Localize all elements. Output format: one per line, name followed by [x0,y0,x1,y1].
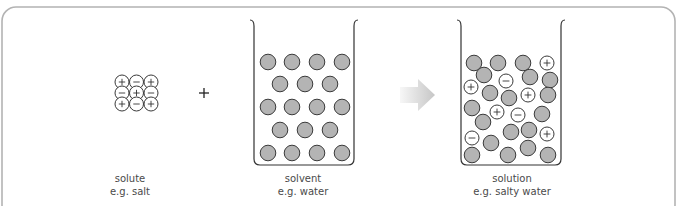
water-molecule [260,145,276,161]
water-molecule [334,54,350,70]
water-molecule [540,87,556,103]
solute-crystal-lattice [115,75,158,111]
water-molecule [503,124,519,140]
water-molecule [475,114,491,130]
water-molecule [297,122,313,138]
water-molecule [309,99,325,115]
water-molecule [482,85,498,101]
water-molecule [521,122,537,138]
plus-operator-icon [199,88,209,98]
right-arrow-icon [400,79,435,111]
solution-label: solution [452,172,572,185]
solution-particles [464,55,558,163]
solute-label: solute [70,172,190,185]
water-molecule [322,76,338,92]
water-molecule [542,72,558,88]
water-molecule [284,54,300,70]
water-molecule [540,147,556,163]
water-molecule [284,145,300,161]
water-molecule [272,122,288,138]
solution-caption: solution e.g. salty water [452,172,572,198]
water-molecule [260,54,276,70]
water-molecule [334,99,350,115]
water-molecule [309,145,325,161]
water-molecule [476,67,492,83]
dissolution-diagram: solute e.g. salt solvent e.g. water solu… [0,0,677,206]
water-molecule [501,90,517,106]
water-molecule [515,55,531,71]
water-molecule [490,55,506,71]
solute-example: e.g. salt [70,185,190,198]
water-molecule [309,54,325,70]
water-molecule [284,99,300,115]
solute-caption: solute e.g. salt [70,172,190,198]
water-molecule [520,140,536,156]
solvent-example: e.g. water [243,185,363,198]
solvent-beaker [250,20,358,165]
water-molecule [322,122,338,138]
water-molecule [272,76,288,92]
water-molecule [522,69,538,85]
water-molecule [464,147,480,163]
water-molecule [464,100,480,116]
water-molecule [334,145,350,161]
water-molecule [260,99,276,115]
solvent-label: solvent [243,172,363,185]
solvent-caption: solvent e.g. water [243,172,363,198]
solvent-water-particles [260,54,350,161]
water-molecule [297,76,313,92]
water-molecule [483,135,499,151]
solution-example: e.g. salty water [452,185,572,198]
water-molecule [534,106,550,122]
water-molecule [500,147,516,163]
